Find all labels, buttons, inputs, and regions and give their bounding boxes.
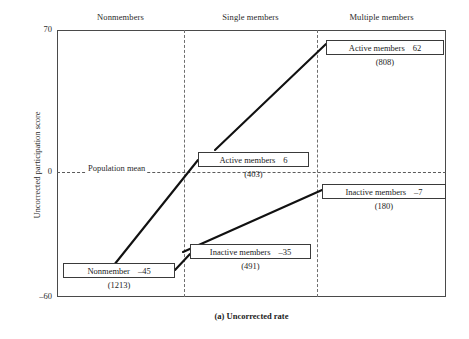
- data-label-count-808: (808): [326, 57, 444, 67]
- panel-divider-1: [184, 30, 185, 297]
- chart-container: Nonmembers Single members Multiple membe…: [0, 0, 469, 339]
- data-label-active-members-62: Active members 62: [326, 40, 444, 55]
- figure-caption: (a) Uncorrected rate: [57, 311, 446, 321]
- data-label-name: Inactive members: [345, 187, 414, 197]
- data-label-name: Nonmember: [87, 266, 138, 276]
- data-label-name: Inactive members: [210, 247, 279, 257]
- data-label-active-members-6: Active members 6: [198, 152, 309, 167]
- panel-header-multiple-members: Multiple members: [317, 12, 446, 22]
- panel-header-single-members: Single members: [184, 12, 317, 22]
- y-axis-tick-70: 70: [26, 24, 52, 34]
- data-label-inactive-members-minus35: Inactive members –35: [190, 244, 311, 259]
- data-label-inactive-members-minus7: Inactive members –7: [322, 184, 446, 199]
- data-label-count-1213: (1213): [63, 280, 175, 290]
- data-label-name: Active members: [219, 155, 283, 165]
- data-label-name: Active members: [349, 43, 413, 53]
- data-label-value: 62: [413, 43, 422, 53]
- data-label-value: 6: [283, 155, 287, 165]
- y-axis-title: Uncorrected participation score: [32, 65, 42, 265]
- panel-divider-2: [317, 30, 318, 297]
- data-label-count-180: (180): [322, 201, 446, 211]
- data-label-value: –35: [278, 247, 291, 257]
- panel-header-nonmembers: Nonmembers: [57, 12, 184, 22]
- data-label-value: –7: [414, 187, 423, 197]
- data-label-count-403: (403): [198, 169, 309, 179]
- data-label-nonmember-minus45: Nonmember –45: [63, 263, 175, 278]
- data-label-count-491: (491): [190, 261, 311, 271]
- data-label-value: –45: [138, 266, 151, 276]
- population-mean-label: Population mean: [86, 163, 147, 173]
- y-axis-tick-m60: –60: [26, 291, 52, 301]
